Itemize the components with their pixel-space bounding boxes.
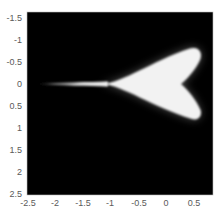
y-axis: -1.5 -1 -0.5 0 0.5 1 1.5 2 2.5 xyxy=(6,13,22,199)
y-tick-label: 1 xyxy=(17,123,22,133)
x-tick-label: -1 xyxy=(106,198,114,208)
x-tick-label: -2.5 xyxy=(20,198,36,208)
x-tick-label: -0.5 xyxy=(131,198,147,208)
x-tick-label: -1.5 xyxy=(75,198,91,208)
y-tick-label: 1.5 xyxy=(9,145,22,155)
x-tick-label: 0.5 xyxy=(188,198,201,208)
y-tick-label: -0.5 xyxy=(6,57,22,67)
x-tick-label: -2 xyxy=(51,198,59,208)
x-axis: -2.5 -2 -1.5 -1 -0.5 0 0.5 xyxy=(20,198,200,208)
x-tick-label: 0 xyxy=(163,198,168,208)
heatmap-chart: -1.5 -1 -0.5 0 0.5 1 1.5 2 2.5 -2.5 -2 -… xyxy=(0,0,221,213)
y-tick-label: -1.5 xyxy=(6,13,22,23)
y-tick-label: 0.5 xyxy=(9,101,22,111)
y-tick-label: -1 xyxy=(14,35,22,45)
y-tick-label: 2 xyxy=(17,167,22,177)
y-tick-label: 0 xyxy=(17,79,22,89)
